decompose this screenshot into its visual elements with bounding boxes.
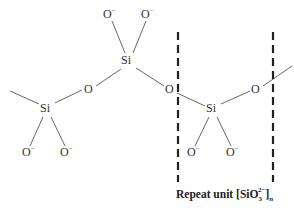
bond-si-right-o: [221, 91, 250, 104]
bonds: [10, 21, 292, 146]
atoms: Si Si Si O O O O− O− O− O− O− O−: [22, 7, 260, 159]
bond-chain-left: [10, 91, 39, 104]
atom-o-bridge-left: O: [84, 82, 93, 96]
atom-o-top-right: O−: [141, 7, 154, 21]
atom-si-left: Si: [40, 101, 51, 115]
bond-si-top-o-center: [136, 68, 164, 86]
bond-si-top-o-left: [112, 21, 125, 53]
atom-o-bottom-1: O−: [22, 145, 35, 159]
atom-o-bottom-3: O−: [187, 145, 200, 159]
bond-si-right-o-bottom-2: [217, 117, 231, 146]
bond-si-left-o-bottom-1: [30, 117, 43, 146]
atom-si-top: Si: [121, 53, 132, 67]
bond-si-right-o-bottom-1: [195, 117, 209, 146]
repeat-unit-label: Repeat unit [SiO32−]n: [176, 186, 273, 203]
bond-si-left-o: [55, 90, 82, 103]
bond-o-si-top: [96, 69, 121, 86]
bond-chain-right: [263, 66, 292, 86]
bond-o-center-si-right: [177, 93, 205, 106]
atom-o-bridge-right: O: [251, 82, 260, 96]
bond-si-top-o-right: [133, 21, 146, 53]
atom-o-bottom-4: O−: [226, 145, 239, 159]
silicate-chain-diagram: Si Si Si O O O O− O− O− O− O− O− Repeat …: [0, 0, 294, 208]
atom-o-top-left: O−: [103, 7, 116, 21]
atom-o-bridge-center: O: [165, 82, 174, 96]
bond-si-left-o-bottom-2: [51, 117, 65, 146]
atom-si-right: Si: [206, 101, 217, 115]
atom-o-bottom-2: O−: [60, 145, 73, 159]
